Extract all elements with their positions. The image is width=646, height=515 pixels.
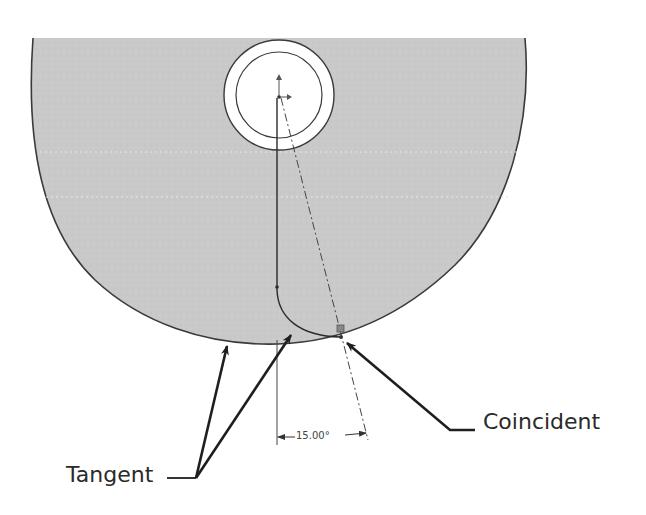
tangent-leader (167, 335, 291, 478)
coincident-leader (347, 343, 475, 430)
coincident-label: Coincident (483, 411, 600, 433)
sketch-canvas: 15.00° Coincident Tangent (0, 0, 646, 515)
angle-dimension-value: 15.00° (296, 431, 330, 441)
tangent-label: Tangent (66, 464, 153, 486)
